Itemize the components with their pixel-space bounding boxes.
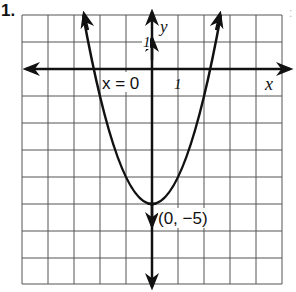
vertex-point bbox=[150, 202, 154, 206]
parabola-graph: 1 y x 1 x = 0 (0, −5) bbox=[0, 0, 296, 292]
x-tick-label: 1 bbox=[174, 76, 182, 92]
y-axis-label: y bbox=[158, 17, 168, 36]
x-axis-label: x bbox=[264, 74, 273, 94]
y-tick-label: 1 bbox=[143, 34, 151, 50]
vertex-label: (0, −5) bbox=[158, 209, 208, 228]
axis-of-symmetry-label: x = 0 bbox=[102, 74, 139, 93]
